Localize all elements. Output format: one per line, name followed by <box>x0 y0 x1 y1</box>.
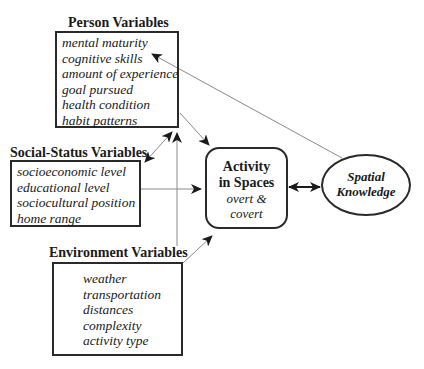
environment-item: transportation <box>83 287 181 303</box>
environment-variables-box: weather transportation distances complex… <box>52 262 183 356</box>
environment-item: weather <box>83 271 181 287</box>
activity-sub-line1: overt & <box>207 191 286 206</box>
environment-variables-title: Environment Variables <box>49 246 188 260</box>
arrow-social-person-bidirectional <box>145 132 172 162</box>
person-item: cognitive skills <box>62 51 177 67</box>
person-item: health condition <box>62 97 177 113</box>
feedback-line-spatial-to-person <box>152 54 342 158</box>
social-item: home range <box>17 211 139 227</box>
social-status-variables-box: socioeconomic level educational level so… <box>10 160 141 227</box>
person-item: mental maturity <box>62 35 177 51</box>
person-item: amount of experience <box>62 66 177 82</box>
activity-title-line1: Activity <box>207 159 286 175</box>
social-item: sociocultural position <box>17 195 139 211</box>
activity-title-line2: in Spaces <box>207 175 286 191</box>
person-variables-box: mental maturity cognitive skills amount … <box>55 31 179 128</box>
person-variables-title: Person Variables <box>68 16 169 30</box>
social-item: educational level <box>17 180 139 196</box>
activity-sub-line2: covert <box>207 206 286 221</box>
social-item: socioeconomic level <box>17 164 139 180</box>
environment-item: complexity <box>83 318 181 334</box>
spatial-line2: Knowledge <box>323 184 409 199</box>
person-item: habit patterns <box>62 113 177 129</box>
arrow-person-to-activity <box>180 113 209 145</box>
environment-item: distances <box>83 302 181 318</box>
social-status-variables-title: Social-Status Variables <box>10 146 147 160</box>
spatial-knowledge-node: Spatial Knowledge <box>321 154 411 216</box>
spatial-line1: Spatial <box>323 169 409 184</box>
environment-item: activity type <box>83 333 181 349</box>
person-item: goal pursued <box>62 82 177 98</box>
activity-in-spaces-node: Activity in Spaces overt & covert <box>205 147 288 229</box>
